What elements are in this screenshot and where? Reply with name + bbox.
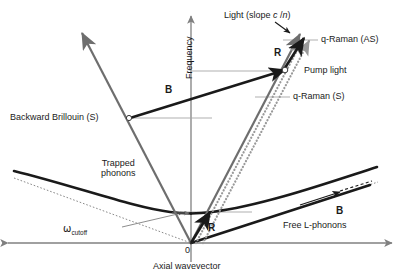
light-slope-label: Light (slope c /n)	[224, 10, 291, 20]
y-axis-label: Frequency	[184, 36, 194, 79]
x-axis-label: Axial wavevector	[153, 261, 221, 271]
free-l-phonons-arrow	[300, 192, 340, 205]
q-raman-as-label: q-Raman (AS)	[321, 34, 379, 44]
free-l-phonons-label: Free L-phonons	[283, 220, 347, 230]
light-line-left-branch	[82, 33, 191, 243]
trapped-phonons-branch	[14, 167, 377, 214]
cutoff-leader-line	[122, 213, 182, 227]
cutoff-leader-group	[122, 213, 182, 227]
b-label-lower: B	[336, 205, 343, 216]
pump-light-label: Pump light	[304, 65, 347, 75]
raman-vector-upper-group	[283, 38, 304, 71]
trapped-phonons-label: Trapped phonons	[101, 158, 136, 178]
raman-vector-upper	[283, 38, 304, 71]
trapped-phonons-line1: Trapped	[102, 158, 135, 168]
light-slope-close: )	[288, 10, 291, 20]
brillouin-vector-upper	[130, 70, 285, 118]
b-label-upper: B	[165, 84, 172, 95]
light-slope-text: Light (slope	[224, 10, 273, 20]
r-label-lower: R	[208, 222, 215, 233]
q-raman-s-label: q-Raman (S)	[293, 91, 345, 101]
trapped-phonons-line2: phonons	[101, 168, 136, 178]
guide-lines	[131, 40, 318, 212]
origin-label: 0	[185, 245, 190, 255]
omega-subscript: cutoff	[71, 229, 87, 236]
omega-cutoff-label: ωcutoff	[63, 223, 87, 236]
light-slope-callout-group	[275, 22, 290, 33]
free-l-phonons-arrow-group	[300, 181, 372, 205]
r-label-upper: R	[274, 47, 281, 58]
backward-brillouin-label: Backward Brillouin (S)	[10, 112, 99, 122]
dispersion-diagram-figure: Light (slope c /n) q-Raman (AS) Pump lig…	[0, 0, 400, 280]
backward-brillouin-point	[126, 115, 131, 120]
brillouin-vector-upper-group	[130, 70, 285, 118]
pump-light-point	[282, 67, 288, 73]
light-slope-callout-arrow	[275, 22, 290, 33]
